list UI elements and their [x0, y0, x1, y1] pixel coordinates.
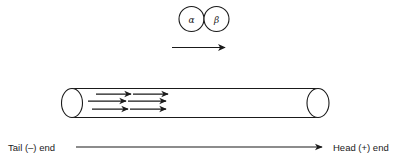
tail-end-label: Tail (–) end — [8, 142, 55, 153]
cylinder-left-cap — [62, 89, 83, 118]
cylinder-body-fill — [72, 89, 318, 118]
head-end-label: Head (+) end — [333, 142, 389, 153]
tubulin-dimer: α β — [179, 7, 229, 32]
alpha-subunit-label: α — [188, 15, 194, 25]
polarity-axis: Tail (–) end Head (+) end — [8, 142, 389, 153]
microtubule-cylinder — [62, 89, 330, 118]
cylinder-right-cap — [307, 89, 329, 118]
beta-subunit-label: β — [213, 15, 219, 25]
microtubule-polarity-diagram: α β — [0, 0, 410, 162]
diagram-canvas: α β — [0, 0, 410, 162]
